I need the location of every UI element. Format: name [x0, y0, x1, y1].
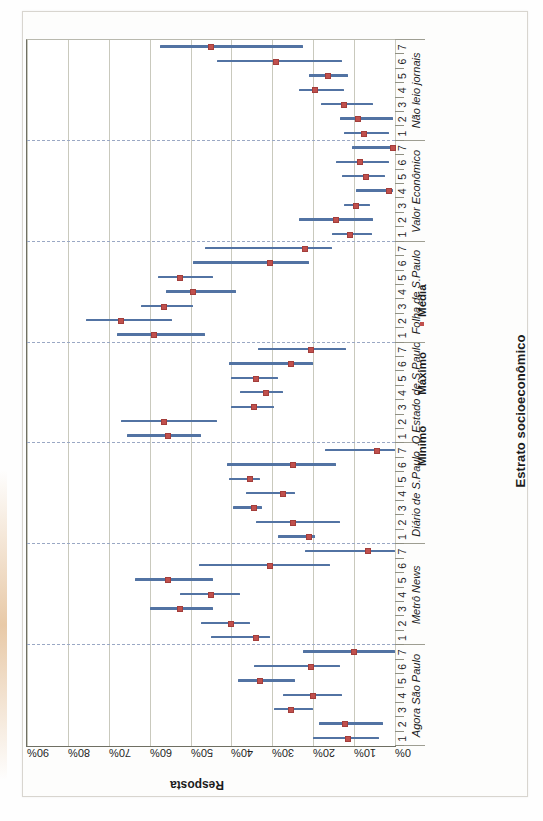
mean-marker: [252, 375, 258, 381]
range-bar: [116, 333, 204, 335]
range-bar: [352, 146, 395, 148]
mean-marker: [324, 73, 330, 79]
y-tick-label: 80%: [67, 747, 89, 759]
mean-marker: [263, 390, 269, 396]
y-tick-label: 70%: [108, 747, 130, 759]
mean-marker: [389, 145, 395, 151]
mean-marker: [250, 505, 256, 511]
plot-area: 0%10%20%30%40%50%60%70%80%90%Agora São P…: [26, 39, 396, 747]
mean-marker: [208, 44, 214, 50]
mean-marker: [312, 87, 318, 93]
mean-marker: [267, 562, 273, 568]
range-bar: [229, 477, 260, 479]
mean-marker: [177, 274, 183, 280]
mean-marker: [365, 548, 371, 554]
range-bar: [86, 319, 172, 321]
gridline-20%: [313, 40, 314, 746]
y-axis-title: Resposta: [127, 778, 267, 792]
mean-marker: [308, 346, 314, 352]
range-bar: [127, 434, 201, 436]
mean-marker: [160, 418, 166, 424]
range-bar: [319, 722, 382, 724]
mean-marker: [357, 159, 363, 165]
mean-marker: [228, 620, 234, 626]
range-bar: [237, 679, 294, 681]
group-separator: [27, 442, 395, 443]
gridline-40%: [231, 40, 232, 746]
group-boundary-tick: [395, 39, 425, 40]
mean-marker: [351, 649, 357, 655]
y-tick-label: 50%: [190, 747, 212, 759]
group-label-n-o-leio-jornais: Não leio jornais: [410, 52, 422, 128]
range-bar: [253, 664, 339, 666]
mean-marker: [340, 101, 346, 107]
mean-marker: [347, 231, 353, 237]
group-separator: [27, 139, 395, 140]
rotated-chart-wrapper: Resposta 0%10%20%30%40%50%60%70%80%90%Ag…: [0, 0, 543, 821]
mean-marker: [118, 317, 124, 323]
range-bar: [229, 362, 313, 364]
range-bar: [121, 419, 217, 421]
range-bar: [258, 347, 346, 349]
mean-marker: [363, 173, 369, 179]
category-label: 7: [396, 38, 408, 56]
mean-marker: [246, 476, 252, 482]
group-label-valor-econ-mico: Valor Econômico: [410, 149, 422, 232]
mean-marker: [306, 534, 312, 540]
mean-marker: [165, 433, 171, 439]
legend-item-media: Média: [416, 284, 428, 326]
mean-marker: [287, 361, 293, 367]
mean-marker: [250, 404, 256, 410]
legend-item-maximo: Máximo: [416, 351, 428, 399]
group-separator: [27, 240, 395, 241]
range-bar: [239, 391, 282, 393]
group-separator: [27, 543, 395, 544]
range-bar: [204, 247, 331, 249]
y-tick-label: 20%: [313, 747, 335, 759]
mean-marker: [257, 678, 263, 684]
range-bar: [211, 636, 270, 638]
y-tick-label: 90%: [27, 747, 49, 759]
mean-marker: [150, 332, 156, 338]
mean-marker: [189, 289, 195, 295]
range-bar: [198, 564, 329, 566]
mean-marker: [385, 188, 391, 194]
range-bar: [305, 549, 395, 551]
y-tick-label: 0%: [395, 747, 411, 759]
mean-marker: [289, 519, 295, 525]
group-separator: [27, 644, 395, 645]
range-chart: Resposta 0%10%20%30%40%50%60%70%80%90%Ag…: [12, 11, 532, 811]
mean-marker: [273, 58, 279, 64]
gridline-80%: [67, 40, 68, 746]
range-bar: [166, 290, 236, 292]
mean-marker: [252, 634, 258, 640]
mean-marker: [308, 663, 314, 669]
mean-marker: [208, 591, 214, 597]
mean-marker: [160, 303, 166, 309]
range-bar: [303, 650, 395, 652]
group-label-agora-s-o-paulo: Agora São Paulo: [410, 653, 422, 736]
group-label-metr-news: Metrô News: [410, 565, 422, 624]
gridline-90%: [27, 40, 28, 746]
range-bar: [157, 275, 212, 277]
mean-marker: [361, 130, 367, 136]
mean-marker: [342, 721, 348, 727]
mean-marker: [332, 217, 338, 223]
range-bar: [192, 261, 309, 263]
gridline-70%: [108, 40, 109, 746]
x-axis-title: Estrato socioeconômico: [513, 11, 528, 811]
mean-marker: [165, 577, 171, 583]
range-bar: [339, 117, 392, 119]
mean-marker: [279, 490, 285, 496]
legend-label-media: Média: [416, 284, 428, 317]
scanned-page: Resposta 0%10%20%30%40%50%60%70%80%90%Ag…: [0, 0, 543, 821]
chart-legend: Mínimo Máximo Média: [416, 241, 428, 471]
mean-marker: [353, 202, 359, 208]
range-bar: [255, 520, 339, 522]
legend-label-minimo: Mínimo: [416, 425, 428, 465]
mean-marker: [289, 462, 295, 468]
mean-marker: [302, 245, 308, 251]
mean-marker: [267, 260, 273, 266]
range-bar: [135, 578, 213, 580]
gridline-60%: [149, 40, 150, 746]
